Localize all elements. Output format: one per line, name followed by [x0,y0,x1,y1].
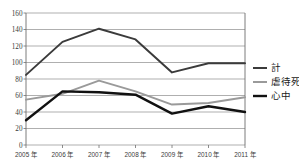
x-tick-label: 2010 年 [198,150,221,159]
y-tick-label: 100 [12,59,23,67]
x-tick-label: 2009 年 [161,150,184,159]
x-tick-label: 2008 年 [125,150,148,159]
x-axis-tick-marks [26,145,245,148]
y-tick-label: 40 [15,109,23,117]
y-tick-label: 0 [19,142,23,150]
series-line-計 [26,29,245,75]
y-tick-label: 160 [12,10,23,18]
y-tick-label: 60 [15,92,23,100]
gridlines [26,13,245,145]
x-tick-label: 2007 年 [88,150,111,159]
legend-label-計: 計 [271,62,281,73]
y-tick-label: 80 [15,76,23,84]
line-chart: 020406080100120140160 2005 年2006 年2007 年… [0,0,299,166]
x-axis-tick-labels: 2005 年2006 年2007 年2008 年2009 年2010 年2011… [15,150,257,159]
chart-legend: 計虐待死心中 [253,62,299,101]
y-tick-label: 20 [15,125,23,133]
legend-label-虐待死: 虐待死 [271,76,299,87]
legend-label-心中: 心中 [271,90,291,101]
series-line-虐待死 [26,81,245,105]
y-tick-label: 120 [12,43,23,51]
x-tick-label: 2006 年 [52,150,75,159]
chart-canvas: 020406080100120140160 2005 年2006 年2007 年… [0,0,299,166]
series-lines [26,29,245,121]
y-axis-tick-labels: 020406080100120140160 [12,10,26,150]
x-tick-label: 2011 年 [234,150,257,159]
y-tick-label: 140 [12,26,23,34]
x-tick-label: 2005 年 [15,150,38,159]
